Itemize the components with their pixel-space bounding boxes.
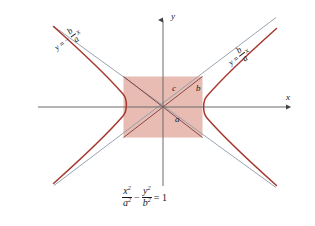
hyperbola-equation: x2 a2 − y2 b2 = 1: [122, 186, 169, 208]
segment-label-c: c: [172, 84, 176, 93]
equation-minus-operator: −: [132, 192, 142, 203]
equation-term-2-numerator-exponent: 2: [147, 184, 150, 191]
equation-term-1-numerator-exponent: 2: [128, 184, 131, 191]
hyperbola-figure: y x a b c y= −bax y=bax x2 a2 − y2 b2 = …: [0, 0, 315, 226]
equation-term-1-denominator: a2: [122, 198, 132, 209]
equation-term-1-denominator-exponent: 2: [128, 195, 131, 202]
equation-term-1: x2 a2: [122, 186, 132, 208]
equation-equals-one: = 1: [152, 192, 169, 203]
segment-label-a: a: [175, 115, 180, 124]
equation-term-2-denominator-exponent: 2: [148, 195, 151, 202]
equation-term-2-denominator: b2: [142, 198, 152, 209]
y-axis-label: y: [171, 12, 175, 21]
segment-label-b: b: [196, 84, 201, 93]
x-axis-label: x: [286, 93, 290, 102]
equation-term-2: y2 b2: [142, 186, 152, 208]
